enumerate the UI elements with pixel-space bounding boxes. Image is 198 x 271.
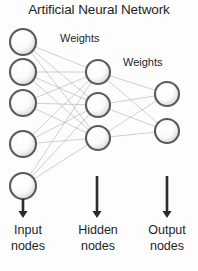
edge-line [109,96,156,104]
edge-line [31,113,90,177]
node-input-4 [10,131,36,157]
edge-line [30,51,91,129]
arrows-layer [18,176,171,218]
arrow-hidden [92,176,101,218]
output-nodes-label-line1: Output [148,223,186,237]
weights-label-input-hidden: Weights [60,32,100,44]
arrow-input [18,199,27,218]
output-nodes-label: Output nodes [136,222,198,254]
hidden-nodes-label: Hidden nodes [66,222,130,254]
node-input-2 [10,59,36,85]
node-hidden-2 [86,93,110,117]
arrow-head [162,211,171,218]
node-output-1 [155,82,179,106]
hidden-nodes-label-line2: nodes [66,238,130,254]
edge-line [108,75,156,90]
edge-line [108,109,156,127]
input-nodes-label: Input nodes [0,222,56,254]
node-input-1 [10,29,36,55]
node-input-3 [10,90,36,116]
node-hidden-3 [86,126,110,150]
output-nodes-label-line2: nodes [136,238,198,254]
edge-line [34,46,88,67]
edge-line [34,108,88,133]
nodes-layer [10,29,179,199]
edge-line [35,139,87,143]
edge-line [107,100,157,132]
node-hidden-1 [86,60,110,84]
edge-line [32,80,90,136]
edge-line [109,132,156,137]
edge-line [34,76,88,98]
edge-line [106,79,158,124]
edge-line [33,144,89,180]
hidden-nodes-label-line1: Hidden [78,223,118,237]
arrow-head [18,211,27,218]
node-output-2 [155,119,179,143]
neural-network-diagram: Artificial Neural Network Weights Weight… [0,0,198,271]
edge-line [35,103,87,104]
node-input-5 [10,173,36,199]
input-nodes-label-line1: Input [14,223,42,237]
weights-label-hidden-output: Weights [123,56,163,68]
input-nodes-label-line2: nodes [0,238,56,254]
arrow-output [162,176,171,218]
arrow-head [92,211,101,218]
